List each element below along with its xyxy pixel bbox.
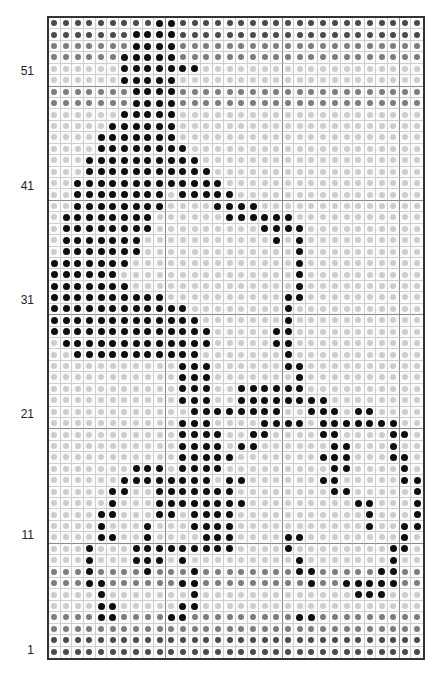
stitch-dot-light-grey-background- <box>344 432 350 438</box>
chart-cell <box>388 338 400 349</box>
chart-cell <box>400 407 412 418</box>
chart-cell <box>306 41 318 52</box>
stitch-dot-light-grey-background- <box>390 386 396 392</box>
chart-cell <box>189 464 201 475</box>
stitch-dot-light-grey-background- <box>308 477 314 483</box>
chart-cell <box>189 281 201 292</box>
stitch-dot-black-motif- <box>214 180 221 187</box>
chart-cell <box>376 544 388 555</box>
chart-cell <box>294 212 306 223</box>
chart-cell <box>213 212 225 223</box>
chart-cell <box>330 258 342 269</box>
stitch-dot-light-grey-background- <box>250 260 256 266</box>
chart-cell <box>224 361 236 372</box>
stitch-dot-light-grey-background- <box>355 260 361 266</box>
chart-cell <box>189 155 201 166</box>
chart-cell <box>341 509 353 520</box>
chart-cell <box>84 372 96 383</box>
chart-cell <box>236 567 248 578</box>
chart-cell <box>259 624 271 635</box>
stitch-dot-black-motif- <box>144 100 151 107</box>
stitch-dot-light-grey-background- <box>250 477 256 483</box>
chart-cell <box>283 589 295 600</box>
chart-cell <box>119 395 131 406</box>
stitch-dot-light-grey-background- <box>63 77 69 83</box>
stitch-dot-light-grey-background- <box>227 157 233 163</box>
chart-cell <box>178 418 190 429</box>
stitch-dot-light-grey-background- <box>297 329 303 335</box>
stitch-dot-light-grey-background- <box>273 317 279 323</box>
chart-cell <box>400 121 412 132</box>
chart-cell <box>376 509 388 520</box>
chart-cell <box>294 532 306 543</box>
chart-cell <box>400 464 412 475</box>
stitch-dot-light-grey-background- <box>308 157 314 163</box>
stitch-dot-light-grey-background- <box>262 317 268 323</box>
stitch-dot-light-grey-background- <box>320 317 326 323</box>
chart-cell <box>49 201 61 212</box>
stitch-dot-light-grey-background- <box>133 592 139 598</box>
chart-cell <box>330 178 342 189</box>
stitch-dot-light-grey-background- <box>51 489 57 495</box>
stitch-dot-light-grey-background- <box>320 123 326 129</box>
stitch-dot-light-grey-background- <box>168 592 174 598</box>
stitch-dot-light-grey-background- <box>51 77 57 83</box>
stitch-dot-light-grey-background- <box>308 249 314 255</box>
stitch-dot-black-motif- <box>133 65 140 72</box>
stitch-dot-dark-grey <box>203 32 209 38</box>
stitch-dot-dark-grey <box>390 649 396 655</box>
stitch-dot-light-grey-background- <box>157 249 163 255</box>
chart-cell <box>411 567 423 578</box>
chart-cell <box>353 109 365 120</box>
chart-cell <box>131 589 143 600</box>
chart-cell <box>189 121 201 132</box>
stitch-dot-light-grey-background- <box>262 363 268 369</box>
stitch-dot-light-grey-background- <box>390 260 396 266</box>
stitch-dot-black-motif- <box>203 488 210 495</box>
stitch-dot-black-motif- <box>109 283 116 290</box>
stitch-dot-light-grey-background- <box>344 409 350 415</box>
stitch-dot-medium-grey <box>367 569 373 575</box>
chart-cell <box>306 258 318 269</box>
stitch-dot-dark-grey <box>215 649 221 655</box>
stitch-dot-light-grey-background- <box>390 180 396 186</box>
stitch-dot-medium-grey <box>367 626 373 632</box>
chart-cell <box>411 235 423 246</box>
chart-cell <box>318 452 330 463</box>
chart-cell <box>376 338 388 349</box>
chart-cell <box>236 29 248 40</box>
stitch-dot-medium-grey <box>262 54 268 60</box>
stitch-dot-light-grey-background- <box>133 374 139 380</box>
chart-cell <box>411 475 423 486</box>
stitch-dot-light-grey-background- <box>203 134 209 140</box>
chart-cell <box>96 189 108 200</box>
stitch-dot-light-grey-background- <box>51 169 57 175</box>
stitch-dot-light-grey-background- <box>192 226 198 232</box>
stitch-dot-light-grey-background- <box>320 294 326 300</box>
stitch-dot-light-grey-background- <box>98 77 104 83</box>
chart-cell <box>353 235 365 246</box>
stitch-dot-light-grey-background- <box>192 534 198 540</box>
stitch-dot-medium-grey <box>297 626 303 632</box>
stitch-dot-light-grey-background- <box>262 512 268 518</box>
stitch-dot-medium-grey <box>379 54 385 60</box>
stitch-dot-dark-grey <box>332 649 338 655</box>
chart-cell <box>166 647 178 658</box>
stitch-dot-light-grey-background- <box>157 443 163 449</box>
chart-cell <box>294 247 306 258</box>
stitch-dot-light-grey-background- <box>227 169 233 175</box>
chart-cell <box>96 532 108 543</box>
chart-cell <box>318 429 330 440</box>
chart-cell <box>49 635 61 646</box>
chart-cell <box>411 189 423 200</box>
chart-cell <box>353 258 365 269</box>
stitch-dot-black-motif- <box>121 317 128 324</box>
chart-cell <box>388 292 400 303</box>
chart-cell <box>411 201 423 212</box>
chart-cell <box>131 75 143 86</box>
stitch-dot-medium-grey <box>273 43 279 49</box>
chart-cell <box>189 212 201 223</box>
chart-cell <box>224 41 236 52</box>
stitch-dot-light-grey-background- <box>238 283 244 289</box>
chart-cell <box>365 75 377 86</box>
